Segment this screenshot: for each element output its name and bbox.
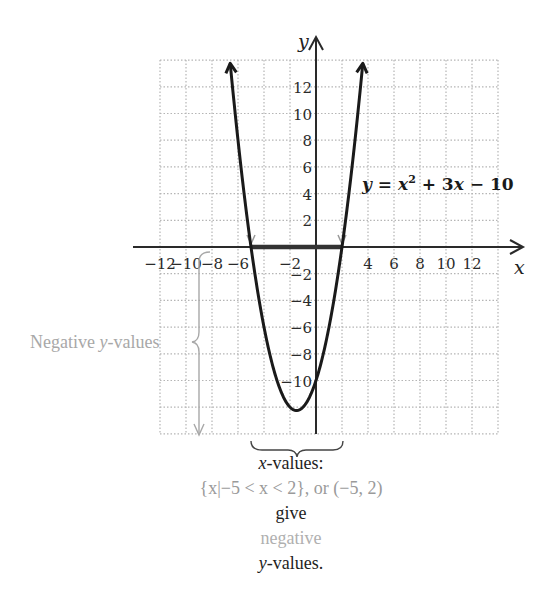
y-tick-label: −2 (290, 266, 312, 284)
y-tick-label: −4 (290, 292, 312, 310)
x-tick-label: 12 (462, 255, 481, 273)
give-caption: give (0, 502, 554, 524)
annotations (192, 252, 343, 457)
y-tick-label: −10 (280, 373, 312, 391)
x-values-caption: x-values: (0, 452, 554, 474)
x-tick-label: 4 (363, 255, 373, 273)
y-axis-label: y (297, 30, 309, 52)
x-tick-label: 8 (415, 255, 425, 273)
negative-caption: negative (0, 527, 554, 549)
axes (133, 37, 523, 434)
x-tick-label: 6 (389, 255, 399, 273)
y-tick-label: 8 (302, 132, 312, 150)
y-tick-label: 6 (302, 159, 312, 177)
equation-label: y = x2 + 3x − 10 (361, 173, 514, 194)
tick-labels: −12−10−8−6−2468101212108642−2−4−6−8−10 (144, 79, 481, 391)
curve-arrowheads (226, 63, 367, 73)
x-tick-label: −6 (227, 255, 249, 273)
y-tick-label: 2 (302, 212, 312, 230)
y-tick-label: −6 (290, 319, 312, 337)
y-tick-label: 4 (302, 186, 312, 204)
y-tick-label: 12 (293, 79, 312, 97)
negative-y-brace (192, 252, 210, 434)
x-axis-label: x (514, 256, 525, 278)
x-tick-label: −8 (201, 255, 223, 273)
x-tick-label: 10 (436, 255, 455, 273)
set-notation-caption: {x|−5 < x < 2}, or (−5, 2) (0, 477, 554, 499)
y-tick-label: −8 (290, 346, 312, 364)
y-tick-label: 10 (293, 106, 312, 124)
negative-y-values-label: Negative y-values (30, 332, 159, 352)
y-values-caption: y-values. (0, 552, 554, 574)
x-tick-label: −10 (170, 255, 202, 273)
